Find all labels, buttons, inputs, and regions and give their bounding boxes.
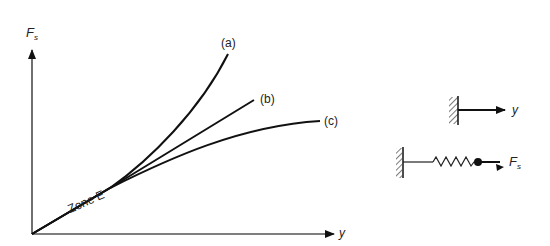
curve-b-label: (b)	[260, 93, 275, 105]
x-axis-label: y	[339, 227, 345, 239]
y-axis-label-main: F	[26, 25, 34, 40]
inset-spring	[396, 147, 504, 178]
inset-force-label-sub: s	[517, 162, 521, 171]
inset-force-label: Fs	[509, 155, 521, 168]
inset-displacement-label: y	[512, 104, 518, 116]
inset-force-label-main: F	[509, 154, 517, 169]
curve-c	[32, 121, 320, 234]
diagram-root: Fs y (a) (b) (c) Zone E y Fs	[0, 0, 550, 246]
curve-c-label: (c)	[324, 115, 338, 127]
inset-displacement	[449, 96, 505, 125]
curve-a	[32, 54, 228, 234]
y-axis-label-sub: s	[34, 33, 38, 42]
y-axis-label: Fs	[26, 26, 38, 39]
curve-a-label: (a)	[221, 37, 236, 49]
